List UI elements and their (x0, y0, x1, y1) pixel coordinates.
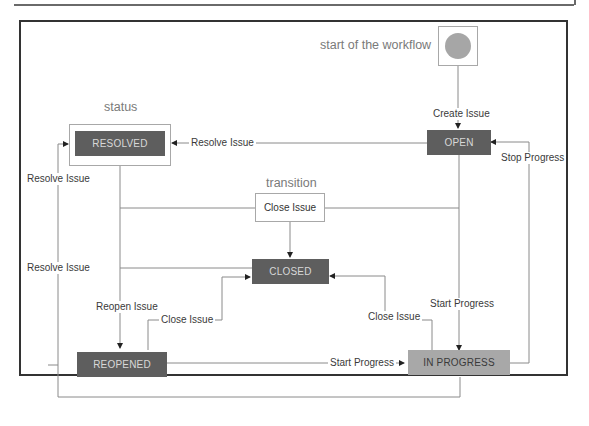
transition-reopen-issue[interactable]: Reopen Issue (94, 301, 160, 313)
transition-resolve-issue-left-1[interactable]: Resolve Issue (25, 173, 92, 185)
caption-transition: transition (266, 176, 317, 190)
caption-start-of-workflow: start of the workflow (320, 38, 431, 52)
start-circle-icon (445, 33, 471, 59)
transition-close-issue-reopened[interactable]: Close Issue (159, 314, 215, 326)
transition-resolve-issue-left-2[interactable]: Resolve Issue (25, 262, 92, 274)
transition-create-issue[interactable]: Create Issue (431, 108, 492, 120)
status-resolved[interactable]: RESOLVED (75, 131, 165, 156)
status-reopened[interactable]: REOPENED (77, 352, 167, 377)
caption-status: status (104, 100, 137, 114)
transition-start-progress-reopened[interactable]: Start Progress (328, 357, 396, 369)
start-node[interactable] (438, 26, 478, 66)
transition-stop-progress[interactable]: Stop Progress (499, 152, 566, 164)
transition-close-issue-center[interactable]: Close Issue (255, 193, 325, 222)
transition-start-progress-open[interactable]: Start Progress (428, 298, 496, 310)
status-closed[interactable]: CLOSED (252, 259, 329, 284)
transition-close-issue-inprogress[interactable]: Close Issue (366, 311, 422, 323)
status-open[interactable]: OPEN (427, 130, 491, 155)
transition-resolve-issue-top[interactable]: Resolve Issue (189, 137, 256, 149)
status-in-progress[interactable]: IN PROGRESS (408, 350, 510, 375)
